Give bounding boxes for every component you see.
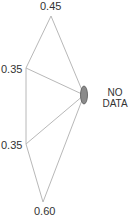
edge-outer-3 xyxy=(26,144,43,202)
leaf-label-upper-left: 0.35 xyxy=(1,63,22,75)
leaf-label-lower-left: 0.35 xyxy=(1,139,22,151)
edge-outer-1 xyxy=(26,16,51,68)
edges xyxy=(26,16,84,202)
edge-bottom xyxy=(43,95,84,202)
center-node-label-line2: DATA xyxy=(101,98,129,109)
leaf-label-top: 0.45 xyxy=(40,0,61,12)
edge-top xyxy=(51,16,84,95)
fan-diagram xyxy=(0,0,130,218)
edge-lower-left xyxy=(26,95,84,144)
leaf-label-bottom: 0.60 xyxy=(34,205,55,217)
center-node-label: NO DATA xyxy=(101,87,129,109)
center-node-label-line1: NO xyxy=(101,87,129,98)
edge-upper-left xyxy=(26,68,84,95)
center-node xyxy=(81,86,88,104)
